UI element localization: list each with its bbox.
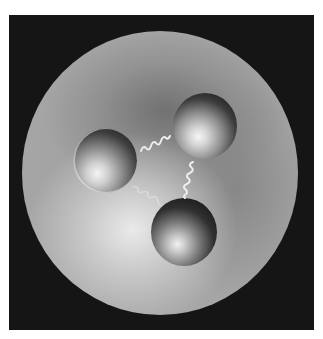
quark-left	[73, 128, 137, 193]
quark-bottom	[151, 198, 217, 266]
hadron-sphere	[22, 31, 298, 315]
quark-top-right	[173, 93, 237, 159]
